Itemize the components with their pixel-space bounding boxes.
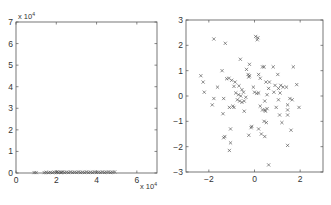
y-tick-label: 4 <box>8 82 13 92</box>
left-scatter-axes: 01234567 0246 x 104 x 104 <box>8 11 157 191</box>
x-marker <box>247 75 250 78</box>
x-marker <box>292 65 295 68</box>
x-marker <box>243 110 246 113</box>
x-marker <box>263 99 266 102</box>
x-marker <box>280 121 283 124</box>
left-y-multiplier: x 104 <box>18 11 35 21</box>
x-marker <box>272 65 275 68</box>
x-tick-label: 6 <box>134 175 139 185</box>
x-marker <box>233 80 236 83</box>
left-x-multiplier: x 104 <box>140 181 157 191</box>
x-marker <box>267 163 270 166</box>
x-marker <box>277 87 280 90</box>
x-marker <box>230 79 233 82</box>
x-marker <box>222 97 225 100</box>
right-axes-box <box>186 20 323 172</box>
x-marker <box>295 83 298 86</box>
y-tick-label: −2 <box>173 142 183 152</box>
x-marker <box>247 134 250 137</box>
x-marker <box>216 86 219 89</box>
x-marker <box>232 85 235 88</box>
y-tick-label: −3 <box>173 167 183 177</box>
y-tick-label: 1 <box>8 146 13 156</box>
x-marker <box>289 129 292 132</box>
x-marker <box>257 73 260 76</box>
x-tick-label: 0 <box>14 175 19 185</box>
x-marker <box>278 113 281 116</box>
x-marker <box>211 103 214 106</box>
y-tick-label: 7 <box>8 17 13 27</box>
x-marker <box>244 96 247 99</box>
y-tick-label: 0 <box>8 168 13 178</box>
y-tick-label: −1 <box>173 116 183 126</box>
x-marker <box>261 65 264 68</box>
x-marker <box>286 103 289 106</box>
right-x-ticks: −202 <box>204 20 303 184</box>
y-tick-label: 2 <box>8 125 13 135</box>
x-marker <box>277 98 280 101</box>
right-scatter-axes: −3−2−10123 −202 <box>173 15 323 184</box>
y-tick-label: 5 <box>8 60 13 70</box>
right-data-points <box>199 35 300 167</box>
x-marker <box>252 86 255 89</box>
x-marker <box>286 113 289 116</box>
x-marker <box>259 77 262 80</box>
x-marker <box>249 126 252 129</box>
x-marker <box>234 91 237 94</box>
y-tick-label: 3 <box>178 15 183 25</box>
x-marker <box>263 135 266 138</box>
x-marker <box>203 91 206 94</box>
x-marker <box>227 77 230 80</box>
x-marker <box>276 73 279 76</box>
x-marker <box>286 108 289 111</box>
x-marker <box>225 77 228 80</box>
left-y-ticks: 01234567 <box>8 17 157 178</box>
x-marker <box>212 97 215 100</box>
x-marker <box>237 84 240 87</box>
x-marker <box>272 91 275 94</box>
x-marker <box>265 93 268 96</box>
y-tick-label: 3 <box>8 103 13 113</box>
x-tick-label: 2 <box>54 175 59 185</box>
x-marker <box>267 87 270 90</box>
y-tick-label: 1 <box>178 66 183 76</box>
left-data-points <box>33 170 117 174</box>
x-marker <box>239 58 242 61</box>
x-marker <box>222 136 225 139</box>
x-marker <box>260 132 263 135</box>
x-marker <box>228 106 231 109</box>
x-marker <box>199 74 202 77</box>
x-marker <box>278 91 281 94</box>
x-marker <box>228 149 231 152</box>
y-tick-label: 6 <box>8 39 13 49</box>
left-axes-box <box>16 22 157 173</box>
left-x-ticks: 0246 <box>14 22 140 185</box>
x-marker <box>220 69 223 72</box>
x-tick-label: 2 <box>298 174 303 184</box>
x-marker <box>224 42 227 45</box>
x-marker <box>268 80 271 83</box>
x-marker <box>279 84 282 87</box>
y-tick-label: 0 <box>178 91 183 101</box>
x-marker <box>281 86 284 89</box>
x-marker <box>229 141 232 144</box>
y-tick-label: 2 <box>178 40 183 50</box>
x-marker <box>232 106 235 109</box>
x-marker <box>257 127 260 130</box>
x-marker <box>221 112 224 115</box>
x-marker <box>262 65 265 68</box>
right-y-ticks: −3−2−10123 <box>173 15 323 177</box>
figure: 01234567 0246 x 104 x 104 −3−2−10123 −20… <box>0 0 331 205</box>
x-marker <box>273 84 276 87</box>
x-marker <box>264 80 267 83</box>
x-marker <box>285 86 288 89</box>
x-tick-label: 4 <box>94 175 99 185</box>
x-marker <box>259 105 262 108</box>
x-marker <box>248 63 251 66</box>
x-marker <box>202 80 205 83</box>
x-marker <box>212 37 215 40</box>
x-marker <box>35 171 38 174</box>
x-marker <box>229 127 232 130</box>
x-marker <box>286 144 289 147</box>
x-tick-label: 0 <box>252 174 257 184</box>
